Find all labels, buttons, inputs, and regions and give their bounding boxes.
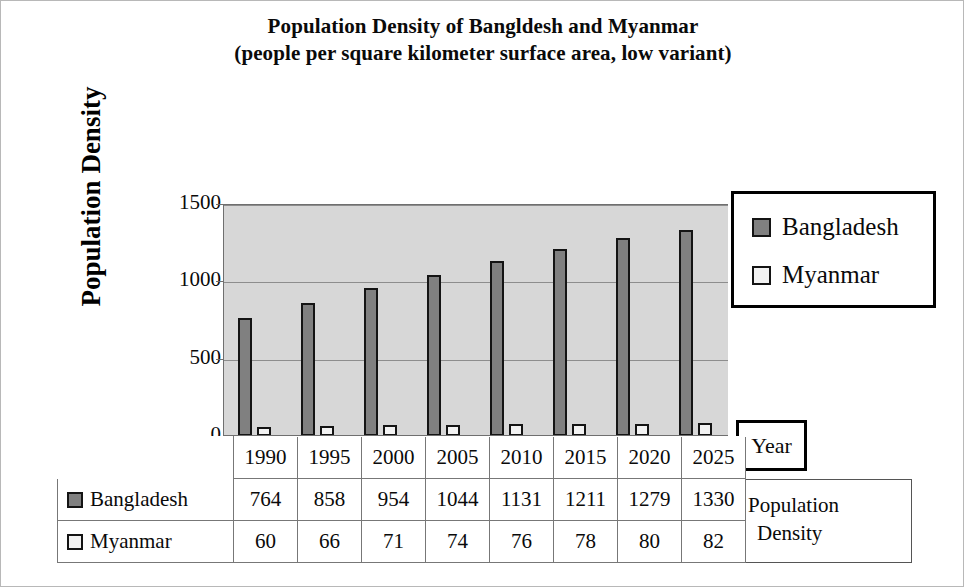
table-year-cell: 2025	[682, 437, 746, 479]
table-row-header-bangladesh: Bangladesh	[58, 479, 234, 521]
y-axis-tick-mark	[216, 204, 223, 205]
table-year-cell: 2010	[490, 437, 554, 479]
table-row-years: 19901995200020052010201520202025	[58, 437, 746, 479]
table-value-cell: 78	[554, 521, 618, 563]
table-year-cell: 1995	[298, 437, 362, 479]
y-axis-tick-label: 1500	[101, 190, 221, 215]
bar-bangladesh-2000	[364, 288, 378, 436]
legend-swatch-icon	[752, 218, 771, 237]
bar-series-container	[224, 205, 728, 436]
legend-label: Bangladesh	[782, 213, 899, 241]
bar-group	[413, 205, 476, 436]
bar-group	[539, 205, 602, 436]
legend-label: Myanmar	[782, 261, 879, 289]
table-value-cell: 82	[682, 521, 746, 563]
table-year-cell: 2005	[426, 437, 490, 479]
value-axis-title-line-1: Population	[748, 491, 911, 519]
table-row: Myanmar6066717476788082	[58, 521, 746, 563]
y-axis-tick-label: 1000	[101, 267, 221, 292]
bar-bangladesh-2010	[490, 261, 504, 436]
table-swatch-icon	[67, 534, 83, 550]
bar-bangladesh-2020	[616, 238, 630, 436]
table-row-label: Bangladesh	[90, 487, 188, 512]
table-value-cell: 1131	[490, 479, 554, 521]
table-value-cell: 954	[362, 479, 426, 521]
table-value-cell: 76	[490, 521, 554, 563]
table-value-cell: 1044	[426, 479, 490, 521]
table-value-cell: 858	[298, 479, 362, 521]
table-value-cell: 60	[234, 521, 298, 563]
y-axis-tick-label: 500	[101, 345, 221, 370]
x-axis-title-box: Year	[736, 420, 807, 471]
table-value-cell: 71	[362, 521, 426, 563]
table-row: Bangladesh76485895410441131121112791330	[58, 479, 746, 521]
table-row-label: Myanmar	[90, 529, 172, 554]
table-value-cell: 764	[234, 479, 298, 521]
table-row-header-myanmar: Myanmar	[58, 521, 234, 563]
y-axis-tick-mark	[216, 359, 223, 360]
table-corner-cell	[58, 437, 234, 479]
chart-title-block: Population Density of Bangldesh and Myan…	[1, 13, 964, 67]
table-year-cell: 2000	[362, 437, 426, 479]
bar-bangladesh-1995	[301, 303, 315, 436]
bar-group	[476, 205, 539, 436]
bar-bangladesh-1990	[238, 318, 252, 436]
chart-page: Population Density of Bangldesh and Myan…	[0, 0, 964, 587]
bar-group	[665, 205, 728, 436]
bar-bangladesh-2025	[679, 230, 693, 436]
bar-group	[602, 205, 665, 436]
bar-group	[287, 205, 350, 436]
value-axis-title-box: Population Density	[736, 479, 912, 563]
table-value-cell: 1211	[554, 479, 618, 521]
table-year-cell: 1990	[234, 437, 298, 479]
legend-swatch-icon	[752, 266, 771, 285]
table-value-cell: 74	[426, 521, 490, 563]
bar-bangladesh-2015	[553, 249, 567, 436]
plot-area	[223, 204, 728, 436]
table-year-cell: 2020	[618, 437, 682, 479]
legend-item-bangladesh: Bangladesh	[752, 203, 933, 251]
table-year-cell: 2015	[554, 437, 618, 479]
table-value-cell: 1330	[682, 479, 746, 521]
y-axis-tick-mark	[216, 281, 223, 282]
table-value-cell: 1279	[618, 479, 682, 521]
bar-bangladesh-2005	[427, 275, 441, 436]
table-value-cell: 80	[618, 521, 682, 563]
chart-title-line-1: Population Density of Bangldesh and Myan…	[1, 13, 964, 40]
value-axis-title-line-2: Density	[748, 519, 911, 547]
data-table: 19901995200020052010201520202025Banglade…	[57, 436, 746, 563]
table-value-cell: 66	[298, 521, 362, 563]
bar-group	[350, 205, 413, 436]
chart-title-line-2: (people per square kilometer surface are…	[1, 40, 964, 67]
bar-group	[224, 205, 287, 436]
chart-legend: BangladeshMyanmar	[731, 191, 936, 308]
plot-wrapper	[223, 204, 728, 436]
table-swatch-icon	[67, 492, 83, 508]
legend-item-myanmar: Myanmar	[752, 251, 933, 299]
